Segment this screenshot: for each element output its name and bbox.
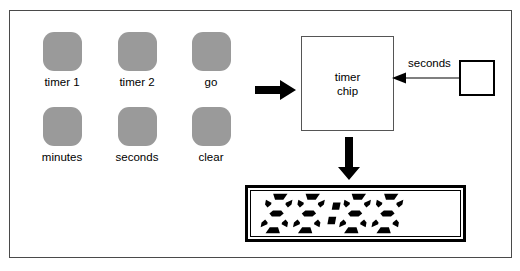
arrow-keypad-to-chip-icon (255, 79, 297, 101)
display-bezel (245, 185, 466, 242)
button-timer-1[interactable] (43, 32, 82, 71)
timer-chip-box: timer chip (301, 36, 394, 131)
timer-chip-label-line1: timer (335, 71, 361, 83)
button-timer-2[interactable] (118, 32, 157, 71)
timer-chip-label-line2: chip (337, 85, 358, 97)
timer-chip-label: timer chip (302, 70, 393, 98)
button-label-clear: clear (166, 151, 256, 164)
button-label-go: go (166, 76, 256, 89)
button-minutes[interactable] (43, 107, 82, 146)
button-clear[interactable] (192, 107, 231, 146)
button-seconds[interactable] (118, 107, 157, 146)
seven-segment-readout (251, 191, 460, 236)
diagram-canvas: timer 1 timer 2 go minutes seconds clear… (0, 0, 520, 271)
seconds-arrow-label: seconds (408, 57, 451, 69)
display-screen (250, 190, 461, 237)
arrow-chip-to-display-icon (337, 137, 361, 181)
arrow-source-to-chip-icon (392, 70, 462, 86)
button-go[interactable] (192, 32, 231, 71)
seconds-source-box (459, 60, 495, 96)
